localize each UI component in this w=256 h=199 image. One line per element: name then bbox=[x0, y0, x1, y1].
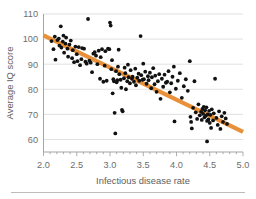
data-point bbox=[97, 49, 101, 53]
data-point bbox=[117, 48, 121, 52]
data-point bbox=[221, 120, 225, 124]
data-point bbox=[190, 127, 194, 131]
data-point bbox=[74, 45, 78, 49]
data-point bbox=[109, 67, 113, 71]
data-point bbox=[93, 50, 97, 54]
y-tick-label-80: 80 bbox=[28, 85, 38, 95]
data-point bbox=[75, 52, 79, 56]
data-point bbox=[82, 47, 86, 51]
data-point bbox=[172, 65, 176, 69]
data-point bbox=[153, 82, 157, 86]
data-point bbox=[128, 81, 132, 85]
data-point bbox=[208, 121, 212, 125]
data-point bbox=[100, 47, 104, 51]
data-point bbox=[98, 77, 102, 81]
data-point bbox=[210, 107, 214, 111]
data-point bbox=[50, 39, 54, 43]
x-tick-label-3.0: 3.0 bbox=[104, 160, 117, 170]
data-point bbox=[220, 114, 224, 118]
data-point bbox=[217, 109, 221, 113]
data-point bbox=[147, 78, 151, 82]
data-point bbox=[53, 35, 57, 39]
data-point bbox=[193, 79, 197, 83]
data-point bbox=[222, 111, 226, 115]
scatter-plot: 60708090100110 2.02.53.03.54.04.55.0 Inf… bbox=[0, 0, 256, 199]
data-point bbox=[71, 48, 75, 52]
data-point bbox=[218, 127, 222, 131]
data-point bbox=[54, 58, 58, 62]
data-point bbox=[119, 86, 123, 90]
x-tick-label-5.0: 5.0 bbox=[237, 160, 250, 170]
data-point bbox=[66, 55, 70, 59]
data-point bbox=[57, 37, 61, 41]
data-point bbox=[155, 90, 159, 94]
data-point bbox=[180, 96, 184, 100]
data-point bbox=[141, 62, 145, 66]
data-point bbox=[205, 140, 209, 144]
data-point bbox=[225, 122, 229, 126]
y-tick-label-70: 70 bbox=[28, 110, 38, 120]
y-axis-title: Average IQ score bbox=[4, 47, 15, 120]
data-point bbox=[99, 55, 103, 59]
data-point bbox=[148, 71, 152, 75]
data-point bbox=[95, 62, 99, 66]
data-point bbox=[129, 68, 133, 72]
data-point bbox=[174, 87, 178, 91]
data-point bbox=[94, 54, 98, 58]
data-point bbox=[103, 64, 107, 68]
data-point bbox=[114, 69, 118, 73]
data-point bbox=[86, 17, 90, 21]
data-point bbox=[76, 59, 80, 63]
data-point bbox=[146, 74, 150, 78]
data-point bbox=[122, 76, 126, 80]
data-point bbox=[77, 45, 81, 49]
data-point bbox=[126, 63, 130, 67]
y-tick-label-90: 90 bbox=[28, 60, 38, 70]
data-point bbox=[133, 67, 137, 71]
data-point bbox=[189, 120, 193, 124]
data-point bbox=[169, 81, 173, 85]
data-point bbox=[78, 63, 82, 67]
data-point bbox=[127, 75, 131, 79]
data-point bbox=[150, 75, 154, 79]
data-point bbox=[137, 79, 141, 83]
data-point bbox=[178, 71, 182, 75]
data-point bbox=[124, 87, 128, 91]
data-point bbox=[153, 74, 157, 78]
x-tick-label-4.0: 4.0 bbox=[170, 160, 183, 170]
data-point bbox=[207, 117, 211, 121]
data-point bbox=[209, 126, 213, 130]
data-point bbox=[70, 56, 74, 60]
x-axis-title: Infectious disease rate bbox=[96, 175, 190, 186]
data-point bbox=[176, 79, 180, 83]
data-point bbox=[216, 123, 220, 127]
data-point bbox=[142, 77, 146, 81]
data-point bbox=[197, 102, 201, 106]
data-point bbox=[85, 62, 89, 66]
data-point bbox=[101, 80, 105, 84]
data-point bbox=[117, 72, 121, 76]
data-point bbox=[69, 39, 73, 43]
x-tick-label-2.0: 2.0 bbox=[37, 160, 50, 170]
data-point bbox=[89, 61, 93, 65]
data-point bbox=[113, 111, 117, 115]
data-point bbox=[66, 47, 70, 51]
data-point bbox=[121, 109, 125, 113]
data-point bbox=[167, 69, 171, 73]
data-point bbox=[143, 70, 147, 74]
data-point bbox=[139, 34, 143, 38]
data-point bbox=[107, 47, 111, 51]
data-point bbox=[59, 24, 63, 28]
data-point bbox=[60, 46, 64, 50]
data-point bbox=[113, 132, 117, 136]
y-tick-label-60: 60 bbox=[28, 135, 38, 145]
data-point bbox=[186, 89, 190, 93]
data-point bbox=[72, 60, 76, 64]
data-point bbox=[156, 79, 160, 83]
data-point bbox=[198, 113, 202, 117]
data-point bbox=[123, 66, 127, 70]
data-point bbox=[188, 59, 192, 63]
x-tick-label-3.5: 3.5 bbox=[137, 160, 150, 170]
data-point bbox=[182, 84, 186, 88]
x-tick-label-2.5: 2.5 bbox=[70, 160, 83, 170]
